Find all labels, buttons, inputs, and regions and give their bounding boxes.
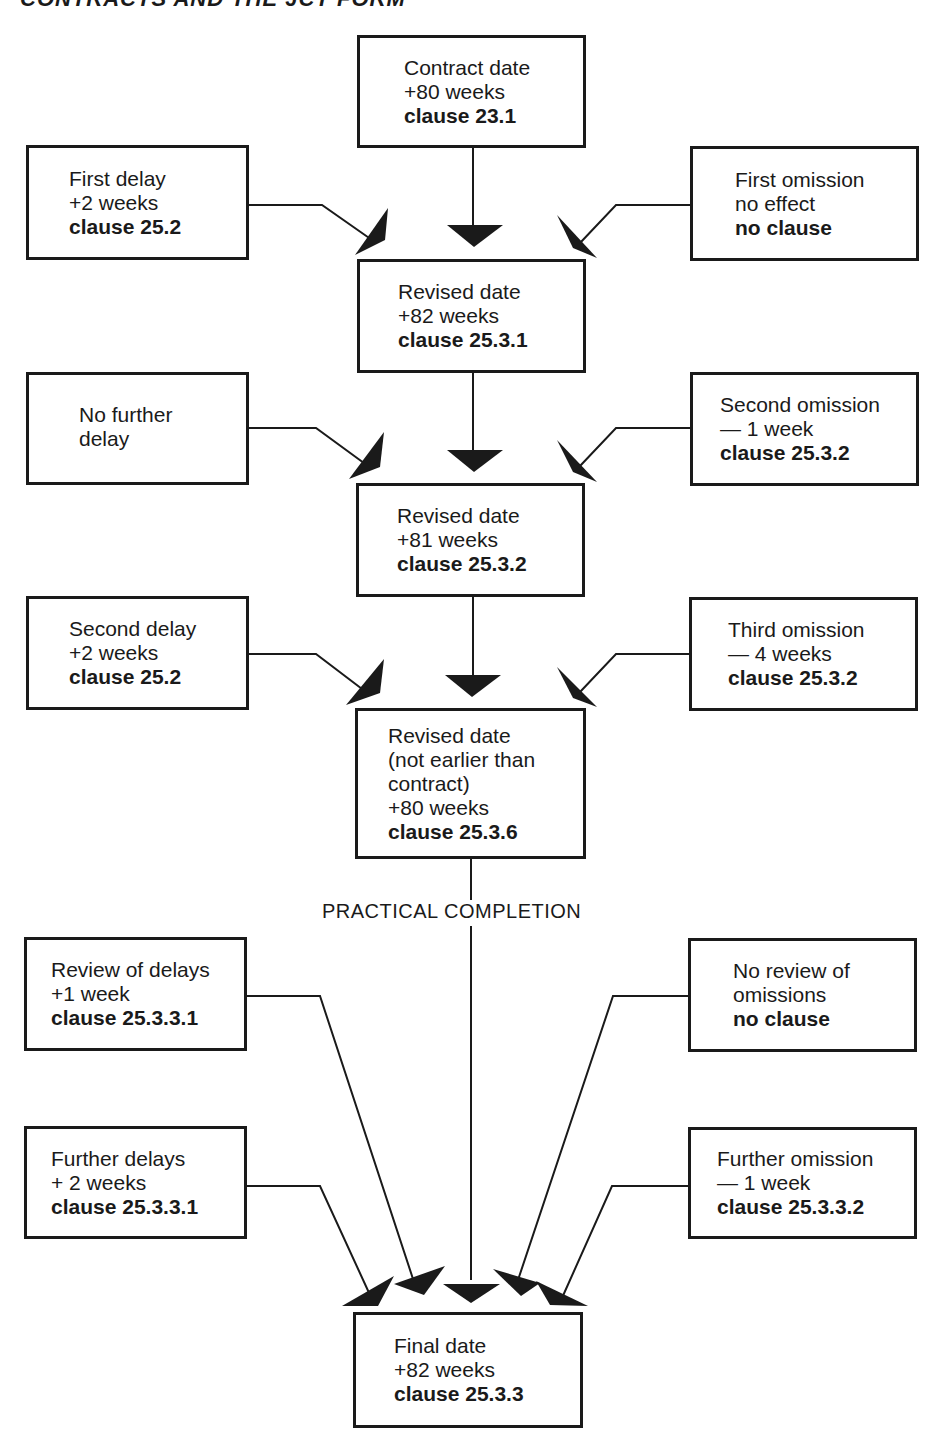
arrowhead-icon xyxy=(557,667,597,707)
box-text: contract) xyxy=(388,772,583,796)
box-text: no effect xyxy=(735,192,916,216)
no-review-of-omissions-box: No review of omissions no clause xyxy=(688,938,917,1052)
final-date-box: Final date +82 weeks clause 25.3.3 xyxy=(353,1312,583,1428)
box-text: +1 week xyxy=(51,982,244,1006)
box-text: Revised date xyxy=(398,280,583,304)
box-text: +2 weeks xyxy=(69,191,246,215)
second-omission-box: Second omission — 1 week clause 25.3.2 xyxy=(690,372,919,486)
arrowhead-icon xyxy=(557,440,597,482)
clause-ref: clause 25.3.2 xyxy=(728,666,915,690)
box-text: Second omission xyxy=(720,393,916,417)
box-text: — 1 week xyxy=(717,1171,914,1195)
connector-line xyxy=(248,428,368,466)
clause-ref: clause 23.1 xyxy=(404,104,583,128)
connector-line xyxy=(246,996,414,1282)
box-text: +82 weeks xyxy=(398,304,583,328)
clause-ref: clause 25.3.3.1 xyxy=(51,1006,244,1030)
box-text: +80 weeks xyxy=(404,80,583,104)
box-text: Review of delays xyxy=(51,958,244,982)
box-text: Revised date xyxy=(388,724,583,748)
arrowhead-icon xyxy=(342,1276,394,1306)
box-text: +82 weeks xyxy=(394,1358,580,1382)
box-text: Revised date xyxy=(397,504,582,528)
arrowhead-icon xyxy=(557,215,597,258)
connector-line xyxy=(246,1186,370,1295)
clause-ref: no clause xyxy=(733,1007,914,1031)
contract-date-box: Contract date +80 weeks clause 23.1 xyxy=(357,35,586,148)
connector-line xyxy=(248,654,366,692)
arrowhead-icon xyxy=(493,1269,540,1296)
no-further-delay-box: No further delay xyxy=(26,372,249,485)
arrowhead-icon xyxy=(394,1266,445,1295)
revised-date-2-box: Revised date +81 weeks clause 25.3.2 xyxy=(356,483,585,597)
connector-line xyxy=(518,996,688,1280)
box-text: Final date xyxy=(394,1334,580,1358)
box-text: Further delays xyxy=(51,1147,244,1171)
clause-ref: clause 25.3.6 xyxy=(388,820,583,844)
box-text: — 4 weeks xyxy=(728,642,915,666)
connector-line xyxy=(580,654,690,692)
arrowhead-down-icon xyxy=(443,1284,500,1303)
first-omission-box: First omission no effect no clause xyxy=(690,146,919,261)
arrowhead-down-icon xyxy=(447,450,503,472)
box-text: +81 weeks xyxy=(397,528,582,552)
box-text: (not earlier than xyxy=(388,748,583,772)
box-text: Third omission xyxy=(728,618,915,642)
box-text: +80 weeks xyxy=(388,796,583,820)
box-text: Contract date xyxy=(404,56,583,80)
clause-ref: clause 25.2 xyxy=(69,665,246,689)
box-text: No review of xyxy=(733,959,914,983)
box-text: No further xyxy=(79,403,246,427)
review-of-delays-box: Review of delays +1 week clause 25.3.3.1 xyxy=(24,937,247,1051)
connector-line xyxy=(562,1186,688,1298)
clause-ref: clause 25.2 xyxy=(69,215,246,239)
further-omission-box: Further omission — 1 week clause 25.3.3.… xyxy=(688,1127,917,1239)
third-omission-box: Third omission — 4 weeks clause 25.3.2 xyxy=(689,597,918,711)
clause-ref: no clause xyxy=(735,216,916,240)
further-delays-box: Further delays + 2 weeks clause 25.3.3.1 xyxy=(24,1126,247,1239)
connector-line xyxy=(580,428,690,466)
box-text: + 2 weeks xyxy=(51,1171,244,1195)
box-text: delay xyxy=(79,427,246,451)
arrowhead-down-icon xyxy=(447,225,503,247)
arrowhead-icon xyxy=(536,1281,588,1306)
clause-ref: clause 25.3.1 xyxy=(398,328,583,352)
revised-date-3-box: Revised date (not earlier than contract)… xyxy=(355,708,586,859)
practical-completion-label: PRACTICAL COMPLETION xyxy=(320,900,583,923)
box-text: First omission xyxy=(735,168,916,192)
arrowhead-down-icon xyxy=(445,675,501,697)
box-text: omissions xyxy=(733,983,914,1007)
box-text: First delay xyxy=(69,167,246,191)
box-text: Second delay xyxy=(69,617,246,641)
first-delay-box: First delay +2 weeks clause 25.2 xyxy=(26,145,249,260)
box-text: Further omission xyxy=(717,1147,914,1171)
clause-ref: clause 25.3.3.1 xyxy=(51,1195,244,1219)
clause-ref: clause 25.3.3 xyxy=(394,1382,580,1406)
revised-date-1-box: Revised date +82 weeks clause 25.3.1 xyxy=(357,259,586,373)
clause-ref: clause 25.3.3.2 xyxy=(717,1195,914,1219)
box-text: — 1 week xyxy=(720,417,916,441)
box-text: +2 weeks xyxy=(69,641,246,665)
clause-ref: clause 25.3.2 xyxy=(720,441,916,465)
clause-ref: clause 25.3.2 xyxy=(397,552,582,576)
connector-line xyxy=(580,205,690,243)
connector-line xyxy=(248,205,372,240)
second-delay-box: Second delay +2 weeks clause 25.2 xyxy=(26,596,249,710)
